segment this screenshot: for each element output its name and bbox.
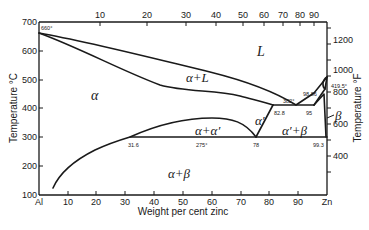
y-axis-title-left: Temperature °C: [8, 73, 19, 143]
zn-melting-point: 419.5°: [331, 83, 347, 89]
label-99-3: 99.3: [313, 142, 324, 148]
label-95: 95: [306, 110, 312, 116]
top-tick-90: 90: [309, 10, 319, 20]
phase-alpha-prime-beta: α′+β: [282, 123, 307, 138]
top-tick-30: 30: [181, 10, 191, 20]
alpha-solvus-curve: [53, 118, 256, 188]
x-axis-title: Weight per cent zinc: [138, 206, 228, 217]
top-tick-80: 80: [295, 10, 305, 20]
zn-solvus: [314, 94, 326, 137]
x-tick-80: 80: [264, 197, 274, 207]
phase-labels: L α+L α α′ α+α′ α′+β β α+β: [91, 44, 342, 181]
x-tick-10: 10: [63, 197, 73, 207]
phase-alpha-L: α+L: [186, 70, 209, 85]
right-tick-1000: 1000: [333, 65, 353, 75]
top-axis: 10 20 30 40 50 60 70 80 90: [95, 10, 319, 26]
top-tick-20: 20: [142, 10, 152, 20]
phase-alpha-alpha-prime: α+α′: [195, 123, 220, 138]
phase-alpha-prime: α′: [255, 113, 265, 128]
phase-L: L: [256, 44, 265, 59]
y-tick-600: 600: [22, 46, 37, 56]
right-tick-400: 400: [333, 151, 348, 161]
top-tick-60: 60: [259, 10, 269, 20]
x-tick-20: 20: [91, 197, 101, 207]
x-tick-70: 70: [236, 197, 246, 207]
right-tick-1200: 1200: [333, 35, 353, 45]
y-tick-100: 100: [22, 190, 37, 200]
solidus-curve: [39, 33, 273, 105]
right-axis: 400 600 800 1000 1200 Temperature °F: [327, 28, 363, 172]
x-tick-zn: Zn: [322, 197, 333, 207]
x-tick-30: 30: [120, 197, 130, 207]
y-tick-700: 700: [22, 17, 37, 27]
y-tick-400: 400: [22, 103, 37, 113]
label-78: 78: [253, 142, 259, 148]
al-melting-point: 660°: [41, 25, 52, 31]
label-98-86: 98.86: [303, 91, 317, 97]
label-82-8: 82.8: [274, 110, 285, 116]
y-tick-200: 200: [22, 161, 37, 171]
y-tick-500: 500: [22, 75, 37, 85]
label-31-6: 31.6: [128, 142, 139, 148]
top-tick-50: 50: [238, 10, 248, 20]
top-tick-70: 70: [278, 10, 288, 20]
y-axis-title-right: Temperature °F: [352, 73, 363, 142]
top-tick-40: 40: [211, 10, 221, 20]
liquidus-curve: [39, 33, 327, 105]
left-axis: 100 200 300 400 500 600 700 Temperature …: [8, 17, 43, 200]
phase-diagram: Al 10 20 30 40 50 60 70 80 90 Zn Weight …: [0, 0, 369, 230]
monotectoid-temp: 275°: [196, 142, 207, 148]
eutectic-temp: 382°: [283, 98, 294, 104]
y-tick-300: 300: [22, 132, 37, 142]
phase-alpha-beta: α+β: [168, 166, 191, 181]
beta-leader-line: [327, 115, 334, 118]
phase-beta: β: [334, 108, 342, 123]
x-tick-90: 90: [293, 197, 303, 207]
phase-alpha: α: [91, 88, 99, 103]
top-tick-10: 10: [95, 10, 105, 20]
